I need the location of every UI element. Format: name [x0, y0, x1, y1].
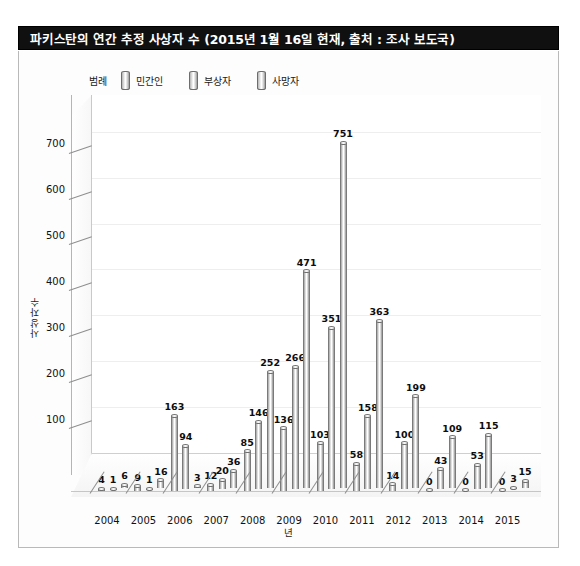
x-axis-title: 년 [19, 525, 558, 539]
bar-value-label: 199 [406, 382, 426, 393]
legend-entry-civilians: 민간인 [121, 71, 163, 90]
bar [292, 367, 299, 489]
bar-cap-icon [292, 365, 299, 369]
bar [98, 489, 105, 491]
bar-value-label: 103 [310, 429, 330, 440]
bar-cap-icon [474, 463, 481, 467]
y-axis-tick-label: 200 [31, 367, 65, 378]
bar [522, 481, 529, 488]
bar-cap-icon [182, 444, 189, 448]
bar-cap-icon [194, 484, 201, 488]
bar-cap-icon [280, 426, 287, 430]
bar-cap-icon [255, 420, 262, 424]
y-axis-tick-label: 600 [31, 184, 65, 195]
chart-frame: 범례 민간인 부상자 사망자 사상자수 1002003004005006 [18, 51, 559, 548]
legend-label-injured: 부상자 [204, 73, 231, 88]
bar-value-label: 163 [164, 401, 184, 412]
bar [280, 429, 287, 491]
bar-value-label: 1 [146, 474, 153, 485]
bar-cap-icon [485, 433, 492, 437]
bar-value-label: 85 [241, 437, 254, 448]
page-title: 파키스탄의 연간 추정 사상자 수 (2015년 1월 16일 현재, 출처 :… [19, 29, 455, 48]
bar-cap-icon [376, 319, 383, 323]
bar-value-label: 94 [179, 431, 192, 442]
bar-value-label: 136 [274, 414, 294, 425]
bar-value-label: 3 [194, 472, 201, 483]
legend-swatch-icon [257, 71, 266, 90]
bar-cap-icon [522, 479, 529, 483]
bar [328, 328, 335, 489]
bar [255, 422, 262, 489]
bar-cap-icon [134, 484, 141, 488]
bar [121, 485, 128, 488]
bar-value-label: 252 [260, 357, 280, 368]
bar-cap-icon [98, 487, 105, 491]
y-axis-tick-label: 100 [31, 413, 65, 424]
bar-cap-icon [146, 487, 153, 491]
bar-value-label: 100 [394, 429, 414, 440]
bar [510, 488, 517, 489]
bar [317, 444, 324, 491]
bar-value-label: 3 [510, 473, 517, 484]
axis-back-wall [91, 95, 541, 475]
gridline [92, 315, 541, 316]
chart-legend: 범례 민간인 부상자 사망자 [89, 71, 325, 90]
bar-value-label: 6 [121, 470, 128, 481]
bar [401, 444, 408, 490]
bar [157, 481, 164, 488]
bar-value-label: 351 [322, 313, 342, 324]
bar-cap-icon [303, 269, 310, 273]
bar [182, 446, 189, 489]
bar [230, 471, 237, 488]
legend-label-deaths: 사망자 [272, 73, 299, 88]
bar-cap-icon [219, 478, 226, 482]
bar [194, 487, 201, 488]
bar [412, 397, 419, 488]
y-axis-tick-label: 700 [31, 138, 65, 149]
bar-cap-icon [412, 394, 419, 398]
bar-cap-icon [110, 487, 117, 491]
bar-cap-icon [267, 370, 274, 374]
bar [364, 417, 371, 490]
plot-area: 100200300400500600700 416911616394312203… [71, 95, 541, 497]
bar-cap-icon [317, 441, 324, 445]
bar-value-label: 53 [471, 450, 484, 461]
gridline [92, 178, 541, 179]
bar [267, 372, 274, 488]
bar-value-label: 36 [227, 456, 240, 467]
bar-cap-icon [449, 435, 456, 439]
legend-swatch-icon [189, 71, 198, 90]
y-axis-tick-label: 500 [31, 229, 65, 240]
bar-value-label: 266 [285, 352, 305, 363]
bar [219, 480, 226, 489]
bar-value-label: 43 [434, 455, 447, 466]
bar [303, 272, 310, 488]
bar-value-label: 146 [249, 407, 269, 418]
bar-value-label: 1 [110, 474, 117, 485]
legend-swatch-icon [121, 71, 130, 90]
gridline [92, 132, 541, 133]
bar-cap-icon [157, 478, 164, 482]
bar-cap-icon [207, 483, 214, 487]
gridline [92, 224, 541, 225]
bar-value-label: 115 [479, 420, 499, 431]
axis-floor-front-edge [71, 491, 541, 492]
legend-title: 범례 [89, 73, 107, 88]
bar [485, 435, 492, 488]
bar-value-label: 751 [333, 128, 353, 139]
bar [437, 470, 444, 490]
chart-title-bar: 파키스탄의 연간 추정 사상자 수 (2015년 1월 16일 현재, 출처 :… [18, 26, 559, 50]
bar-cap-icon [353, 462, 360, 466]
bar-cap-icon [389, 482, 396, 486]
bar-value-label: 58 [350, 449, 363, 460]
bar [376, 321, 383, 488]
bar-cap-icon [364, 414, 371, 418]
bar [449, 438, 456, 488]
gridline [92, 407, 541, 408]
bar-value-label: 109 [442, 423, 462, 434]
bar-value-label: 16 [154, 466, 167, 477]
bar-value-label: 15 [518, 466, 531, 477]
bar-cap-icon [437, 467, 444, 471]
legend-entry-deaths: 사망자 [257, 71, 299, 90]
bar-value-label: 158 [358, 402, 378, 413]
